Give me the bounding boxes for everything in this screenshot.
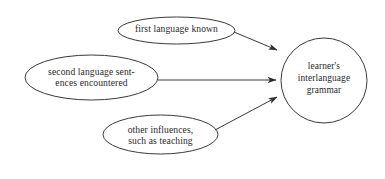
arrow-other-influences-to-grammar (215, 97, 277, 130)
interlanguage-diagram: first language known second language sen… (0, 0, 385, 179)
arrow-first-language-to-grammar (234, 32, 277, 50)
node-first-language-shape (118, 17, 235, 44)
node-interlanguage-grammar-shape (281, 38, 367, 123)
node-other-influences-shape (103, 115, 218, 154)
node-second-language-shape (25, 55, 158, 100)
diagram-canvas (0, 0, 385, 179)
